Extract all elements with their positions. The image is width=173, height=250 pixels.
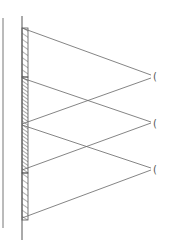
ray-eye3-bottom bbox=[22, 170, 151, 218]
eye-2-icon: ( bbox=[153, 118, 157, 129]
eye-3-icon: ( bbox=[153, 164, 157, 175]
sight-lines bbox=[22, 28, 151, 218]
mirror-strip-upper bbox=[22, 28, 28, 77]
ray-eye1-top bbox=[22, 28, 151, 75]
mirror-strip-lower bbox=[22, 173, 28, 220]
ray-eye3-top bbox=[22, 125, 151, 168]
eye-1-icon: ( bbox=[153, 71, 157, 82]
mirror-diagram: ( ( ( bbox=[0, 0, 173, 250]
